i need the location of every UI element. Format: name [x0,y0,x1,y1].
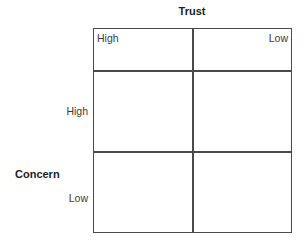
x-label-low: Low [269,32,288,44]
y-label-high: High [28,105,88,117]
header-divider [93,70,292,72]
y-label-low: Low [28,192,88,204]
x-axis-title: Trust [179,5,206,17]
vertical-divider [192,28,194,233]
x-label-high: High [97,32,119,44]
horizontal-divider [93,151,292,153]
y-axis-title: Concern [15,168,60,180]
